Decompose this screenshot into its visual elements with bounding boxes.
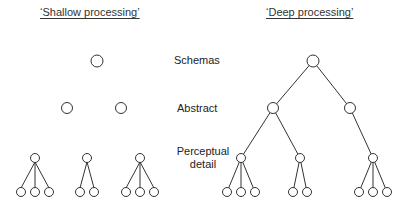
shallow-abstract-node (62, 103, 73, 114)
shallow-schema-node (91, 55, 103, 67)
deep-perceptual-leaf-node (369, 188, 378, 197)
deep-perceptual-leaf-node (223, 188, 232, 197)
shallow-tree (17, 55, 159, 197)
deep-perceptual-leaf-node (237, 188, 246, 197)
deep-perceptual-leaf-node (355, 188, 364, 197)
deep-perceptual-leaf-node (303, 188, 312, 197)
deep-perceptual-leaf-node (251, 188, 260, 197)
processing-depth-diagram: ‘Shallow processing’ ‘Deep processing’ S… (0, 0, 404, 204)
shallow-perceptual-cluster (122, 154, 159, 197)
deep-perceptual-parent-node (237, 154, 246, 163)
deep-abstract-node (345, 103, 356, 114)
tree-graphics (0, 0, 404, 204)
deep-perceptual-leaf-node (383, 188, 392, 197)
deep-perceptual-leaf-node (289, 188, 298, 197)
deep-schema-node (307, 55, 319, 67)
shallow-perceptual-cluster (76, 154, 99, 197)
shallow-perceptual-cluster (17, 154, 54, 197)
deep-perceptual-parent-node (296, 154, 305, 163)
shallow-abstract-node (116, 103, 127, 114)
deep-abstract-node (268, 103, 279, 114)
deep-tree (223, 55, 392, 197)
deep-perceptual-parent-node (369, 154, 378, 163)
